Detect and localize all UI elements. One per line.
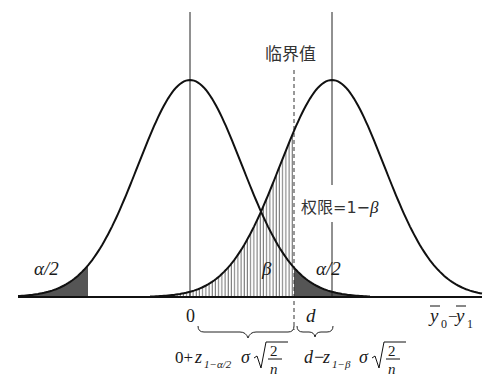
- svg-text:1−β: 1−β: [332, 358, 351, 370]
- svg-text:1−α/2: 1−α/2: [204, 358, 232, 370]
- d-label: d: [306, 305, 316, 326]
- svg-text:0+: 0+: [175, 348, 193, 367]
- svg-text:σ: σ: [241, 347, 251, 367]
- zero-label: 0: [186, 306, 195, 326]
- left-tail-label: α/2: [34, 258, 59, 279]
- svg-text:y: y: [428, 305, 439, 326]
- right-tail-label: α/2: [316, 258, 341, 279]
- svg-text:z: z: [322, 347, 330, 367]
- svg-text:n: n: [388, 361, 396, 377]
- power-label: 权限=1−β: [301, 198, 379, 217]
- svg-text:d−: d−: [304, 347, 325, 367]
- critical-value-label: 临界值: [265, 44, 316, 64]
- svg-text:n: n: [270, 361, 278, 377]
- left-critical-formula: 0+ z 1−α/2 σ 2 n: [175, 342, 288, 377]
- beta-label: β: [261, 258, 272, 279]
- svg-text:0: 0: [441, 317, 447, 331]
- svg-text:2: 2: [270, 343, 278, 359]
- svg-text:σ: σ: [359, 347, 369, 367]
- right-critical-formula: d− z 1−β σ 2 n: [304, 342, 406, 377]
- svg-text:2: 2: [388, 343, 396, 359]
- svg-text:1: 1: [467, 317, 473, 331]
- left-brace: [198, 326, 294, 338]
- power-diagram: 临界值 权限=1−β α/2 α/2 β 0 d y 0 − y 1 0+ z …: [0, 0, 488, 389]
- svg-text:z: z: [194, 347, 202, 367]
- right-brace: [297, 326, 333, 337]
- axis-label: y 0 − y 1: [428, 305, 473, 331]
- beta-region: [150, 126, 296, 297]
- svg-text:y: y: [454, 305, 465, 326]
